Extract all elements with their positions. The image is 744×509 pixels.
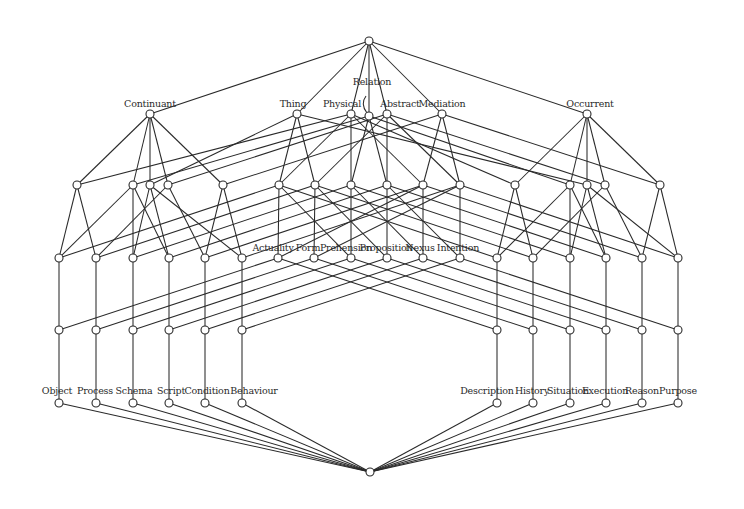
- edge-c4-l5: [168, 185, 205, 258]
- label-purpose: Purpose: [659, 385, 698, 396]
- node-condition: [201, 399, 209, 407]
- label-execution: Execution: [582, 385, 628, 396]
- node-situation: [566, 399, 574, 407]
- edge-o3-r4: [587, 185, 606, 258]
- edge-proposition-a4: [169, 258, 387, 330]
- edge-intention-a6: [242, 258, 460, 330]
- node-actuality: [274, 254, 282, 262]
- edge-c3-l3: [133, 185, 150, 258]
- edge-mediation-m6: [442, 114, 460, 185]
- node-form: [310, 254, 318, 262]
- edge-m6-r6: [460, 185, 678, 258]
- edge-o1-r2: [515, 185, 533, 258]
- label-continuant: Continuant: [124, 98, 176, 109]
- edge-intention-b6: [460, 258, 678, 330]
- node-script: [165, 399, 173, 407]
- node-behaviour: [238, 399, 246, 407]
- node-a4: [165, 326, 173, 334]
- edge-c2-l1: [59, 185, 133, 258]
- label-reason: Reason: [625, 385, 659, 396]
- node-l3: [129, 254, 137, 262]
- label-actuality: Actuality: [251, 242, 294, 253]
- edge-m1-l1: [59, 185, 279, 258]
- edge-process-bottom: [96, 403, 370, 472]
- node-m1: [275, 181, 283, 189]
- node-c3: [146, 181, 154, 189]
- edge-nexus-a5: [205, 258, 423, 330]
- node-r2: [529, 254, 537, 262]
- node-r6: [674, 254, 682, 262]
- edge-purpose-bottom: [370, 403, 678, 472]
- edge-abstract-o4: [387, 114, 605, 185]
- label-process: Process: [77, 385, 113, 396]
- node-m5: [419, 181, 427, 189]
- node-l4: [165, 254, 173, 262]
- label-form: Form: [296, 242, 321, 253]
- node-m3: [347, 181, 355, 189]
- node-abstract: [383, 110, 391, 118]
- edge-relation-o2: [369, 116, 570, 185]
- annotations: [363, 96, 367, 113]
- node-c2: [129, 181, 137, 189]
- node-r1: [493, 254, 501, 262]
- node-process: [92, 399, 100, 407]
- node-physical: [347, 110, 355, 118]
- edge-abstract-m6: [387, 114, 460, 185]
- node-intention: [456, 254, 464, 262]
- edge-relation-m4: [369, 116, 387, 185]
- label-behaviour: Behaviour: [230, 385, 278, 396]
- node-r5: [638, 254, 646, 262]
- node-relation: [365, 112, 373, 120]
- node-c4: [164, 181, 172, 189]
- node-r4: [602, 254, 610, 262]
- edge-relation-m3: [351, 116, 369, 185]
- node-a2: [92, 326, 100, 334]
- edge-situation-bottom: [370, 403, 570, 472]
- node-l5: [201, 254, 209, 262]
- node-reason: [638, 399, 646, 407]
- edge-thing-m2: [297, 114, 315, 185]
- node-b3: [566, 326, 574, 334]
- label-nexus: Nexus: [405, 242, 435, 253]
- label-mediation: Mediation: [418, 98, 465, 109]
- label-condition: Condition: [184, 385, 229, 396]
- edge-continuant-c2: [133, 114, 150, 185]
- node-history: [529, 399, 537, 407]
- label-description: Description: [460, 385, 514, 396]
- node-prehension: [347, 254, 355, 262]
- node-b1: [493, 326, 501, 334]
- node-continuant: [146, 110, 154, 118]
- edge-continuant-c4: [150, 114, 168, 185]
- edge-object-bottom: [59, 403, 370, 472]
- edge-description-bottom: [370, 403, 497, 472]
- node-c5: [219, 181, 227, 189]
- node-o5: [656, 181, 664, 189]
- relation-curl: [363, 96, 367, 113]
- edge-reason-bottom: [370, 403, 642, 472]
- label-abstract: Abstract: [379, 98, 420, 109]
- node-description: [493, 399, 501, 407]
- node-m6: [456, 181, 464, 189]
- edge-relation-c2: [133, 116, 369, 185]
- node-b5: [638, 326, 646, 334]
- node-b6: [674, 326, 682, 334]
- edge-c5-l5: [205, 185, 223, 258]
- node-o2: [566, 181, 574, 189]
- node-proposition: [383, 254, 391, 262]
- node-o4: [601, 181, 609, 189]
- node-a6: [238, 326, 246, 334]
- label-schema: Schema: [115, 385, 153, 396]
- edge-mediation-o5: [442, 114, 660, 185]
- label-physical: Physical: [323, 98, 361, 109]
- edge-actuality-b1: [278, 258, 497, 330]
- label-object: Object: [42, 385, 73, 396]
- node-r3: [566, 254, 574, 262]
- label-intention: Intention: [437, 242, 479, 253]
- node-a3: [129, 326, 137, 334]
- node-b2: [529, 326, 537, 334]
- node-schema: [129, 399, 137, 407]
- node-l6: [238, 254, 246, 262]
- node-thing: [293, 110, 301, 118]
- label-occurrent: Occurrent: [566, 98, 614, 109]
- node-top: [365, 37, 373, 45]
